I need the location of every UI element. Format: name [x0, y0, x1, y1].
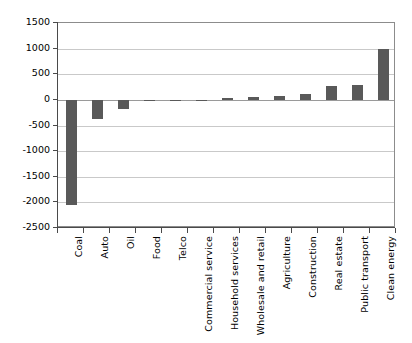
y-tick-label: -2500	[22, 222, 50, 232]
y-tick-mark	[53, 22, 57, 23]
x-tick-mark	[213, 228, 214, 233]
y-tick-label: -1000	[22, 145, 50, 155]
x-tick-mark	[57, 228, 58, 233]
bar	[378, 49, 389, 100]
x-tick-label: Commercial service	[204, 236, 214, 332]
plot-area	[57, 22, 395, 227]
x-tick-label: Construction	[308, 236, 318, 298]
x-tick-label: Oil	[126, 236, 136, 249]
x-tick-mark	[187, 228, 188, 233]
y-tick-label: 1000	[26, 43, 50, 53]
bar-chart: 150010005000-500-1000-1500-2000-2500 Coa…	[0, 0, 412, 343]
y-tick-mark	[53, 48, 57, 49]
x-tick-label: Wholesale and retail	[256, 236, 266, 335]
x-tick-label: Public transport	[360, 236, 370, 313]
bar	[92, 100, 103, 119]
y-tick-label: -500	[28, 120, 50, 130]
x-axis-labels-group: CoalAutoOilFoodTelcoCommercial serviceHo…	[57, 236, 395, 343]
x-tick-mark	[291, 228, 292, 233]
x-tick-label: Real estate	[334, 236, 344, 291]
x-tick-mark	[109, 228, 110, 233]
x-tick-mark	[343, 228, 344, 233]
y-tick-mark	[53, 99, 57, 100]
y-tick-mark	[53, 125, 57, 126]
y-tick-label: 0	[44, 94, 50, 104]
x-tick-label: Household services	[230, 236, 240, 330]
x-tick-mark	[161, 228, 162, 233]
bar	[248, 97, 259, 100]
x-tick-label: Telco	[178, 236, 188, 260]
x-tick-mark	[239, 228, 240, 233]
y-tick-label: 500	[32, 69, 50, 79]
x-tick-mark	[395, 228, 396, 233]
bar	[144, 100, 155, 101]
x-tick-mark	[265, 228, 266, 233]
x-tick-mark	[369, 228, 370, 233]
bar	[326, 86, 337, 100]
y-tick-mark	[53, 201, 57, 202]
bars-group	[58, 23, 396, 228]
y-tick-mark	[53, 73, 57, 74]
bar	[274, 96, 285, 100]
x-tick-mark	[83, 228, 84, 233]
y-tick-label: -2000	[22, 197, 50, 207]
bar	[170, 100, 181, 101]
y-tick-mark	[53, 176, 57, 177]
x-tick-mark	[135, 228, 136, 233]
x-tick-label: Clean energy	[386, 236, 396, 300]
x-axis-line	[57, 227, 395, 228]
bar	[118, 100, 129, 109]
bar	[352, 85, 363, 100]
y-tick-mark	[53, 150, 57, 151]
x-tick-label: Agriculture	[282, 236, 292, 289]
bar	[66, 100, 77, 206]
x-tick-label: Auto	[100, 236, 110, 258]
x-tick-label: Coal	[74, 236, 84, 257]
bar	[196, 100, 207, 101]
y-axis-line: 150010005000-500-1000-1500-2000-2500	[57, 22, 58, 227]
x-tick-label: Food	[152, 236, 162, 259]
x-tick-mark	[317, 228, 318, 233]
y-tick-label: -1500	[22, 171, 50, 181]
bar	[222, 98, 233, 100]
bar	[300, 94, 311, 100]
y-tick-label: 1500	[26, 17, 50, 27]
